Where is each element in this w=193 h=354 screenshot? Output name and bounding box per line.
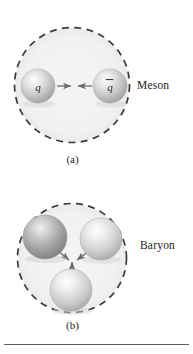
- meson-label: Meson: [137, 79, 169, 91]
- baryon-label: Baryon: [140, 239, 175, 251]
- panel-b-caption: (b): [0, 319, 145, 331]
- quark-label: q: [35, 81, 41, 93]
- figure-root: q q Meson (a): [0, 0, 193, 354]
- panel-a-caption: (a): [0, 153, 145, 165]
- antiquark-label: q: [107, 81, 113, 93]
- baryon-diagram: [0, 177, 145, 322]
- figure-bottom-rule: [4, 344, 189, 345]
- meson-diagram: q q: [0, 0, 145, 150]
